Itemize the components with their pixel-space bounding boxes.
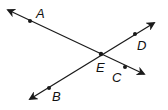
label-a: A: [35, 6, 45, 21]
point-c: [123, 65, 127, 69]
point-d: [133, 32, 137, 36]
label-b: B: [52, 89, 61, 104]
geometry-diagram: A B C D E: [0, 0, 168, 110]
label-c: C: [112, 70, 122, 85]
point-e: [99, 52, 103, 56]
label-e: E: [96, 60, 105, 75]
label-d: D: [137, 38, 146, 53]
point-a: [28, 19, 32, 23]
point-b: [47, 86, 51, 90]
